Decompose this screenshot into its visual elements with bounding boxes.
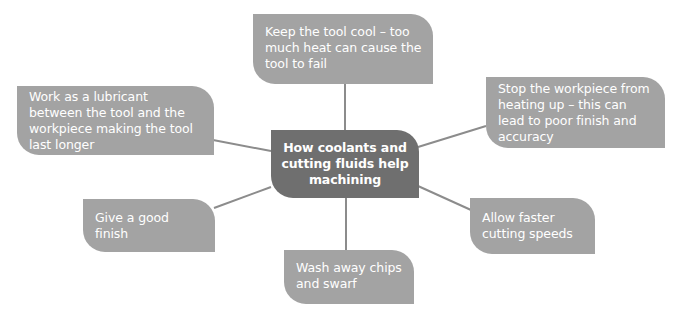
central-topic: How coolants and cutting fluids help mac… [271,130,419,198]
node-wash-away-chips: Wash away chips and swarf [284,250,414,304]
node-stop-workpiece-heating: Stop the workpiece from heating up – thi… [486,77,665,148]
node-label: Work as a lubricant between the tool and… [29,89,204,153]
node-keep-tool-cool: Keep the tool cool – too much heat can c… [253,14,433,84]
central-topic-label: How coolants and cutting fluids help mac… [279,140,411,188]
connector-center-left [213,140,271,151]
node-label: Give a good finish [95,210,205,242]
connector-center-right [418,126,486,147]
node-label: Stop the workpiece from heating up – thi… [498,81,655,145]
node-lubricant: Work as a lubricant between the tool and… [17,86,214,155]
connector-center-speed [418,186,471,210]
node-label: Keep the tool cool – too much heat can c… [265,24,423,72]
node-label: Allow faster cutting speeds [482,210,585,242]
node-label: Wash away chips and swarf [296,260,404,292]
node-good-finish: Give a good finish [83,199,215,252]
node-faster-cutting-speeds: Allow faster cutting speeds [470,198,595,254]
connector-center-finish [214,187,271,208]
